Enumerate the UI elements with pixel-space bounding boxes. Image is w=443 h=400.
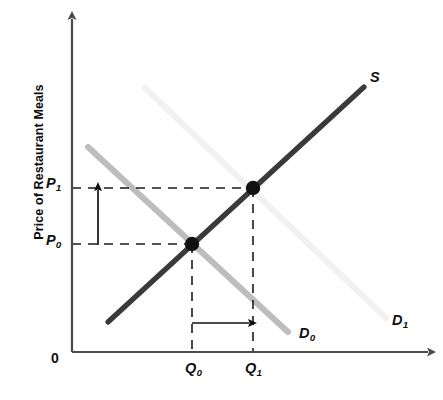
axis-label-q1: Q1 (245, 361, 262, 376)
chart-canvas (0, 0, 443, 400)
axis-label-p1: P1 (46, 176, 61, 191)
supply-demand-chart: Price of Restaurant Meals 0 P1 P0 Q0 Q1 … (0, 0, 443, 400)
curve-label-d0-base: D (299, 325, 309, 341)
axis-label-q0-subscript: 0 (196, 367, 201, 378)
axis-label-q0: Q0 (185, 361, 202, 376)
equilibrium-point-e1 (246, 181, 260, 195)
curve-label-supply: S (370, 70, 380, 85)
curve-label-demand-d1: D1 (392, 313, 408, 328)
curve-label-demand-d0: D0 (299, 326, 315, 341)
axis-label-q1-subscript: 1 (256, 367, 261, 378)
curve-label-d0-subscript: 0 (310, 332, 315, 343)
equilibrium-point-e0 (185, 237, 199, 251)
axis-label-p0: P0 (46, 233, 61, 248)
curve-label-d1-subscript: 1 (403, 319, 408, 330)
axis-label-q0-base: Q (185, 360, 196, 376)
curve-label-d1-base: D (392, 312, 402, 328)
axis-label-p1-subscript: 1 (56, 182, 61, 193)
axis-label-q1-base: Q (245, 360, 256, 376)
axis-label-p0-base: P (46, 232, 56, 248)
axis-label-p1-base: P (46, 175, 56, 191)
y-axis-title: Price of Restaurant Meals (32, 47, 46, 277)
axis-label-p0-subscript: 0 (56, 239, 61, 250)
demand-curve-d1 (145, 88, 386, 318)
origin-label: 0 (51, 351, 59, 365)
